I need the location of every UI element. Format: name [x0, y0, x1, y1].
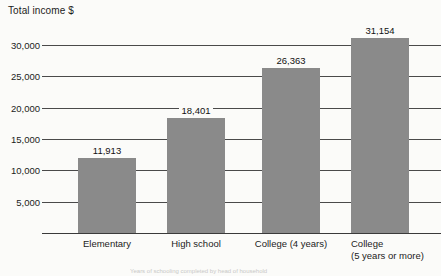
bar-value-college-5-years-or-more: 31,154 — [351, 25, 409, 36]
x-axis-label-college-4-years: College (4 years) — [255, 238, 327, 250]
y-axis-tick-label: 20,000 — [0, 102, 40, 113]
x-axis-label-high-school: High school — [171, 238, 221, 250]
chart-title: Total income $ — [8, 5, 74, 16]
y-axis-tick-label: 25,000 — [0, 71, 40, 82]
bar-value-elementary: 11,913 — [78, 145, 136, 156]
bar-value-text: 18,401 — [179, 105, 212, 116]
y-axis-tick-label: 5,000 — [0, 196, 40, 207]
bar-high-school — [167, 118, 225, 233]
footnote-text: Years of schooling completed by head of … — [130, 268, 430, 276]
y-axis-tick-label: 30,000 — [0, 40, 40, 51]
bar-value-text: 11,913 — [91, 145, 123, 156]
bar-chart: Total income $ 30,000 25,000 20,000 15,0… — [0, 0, 441, 276]
x-axis-baseline — [42, 233, 441, 234]
bar-value-high-school: 18,401 — [167, 105, 225, 116]
y-axis-tick-label: 10,000 — [0, 165, 40, 176]
bar-value-text: 26,363 — [274, 55, 307, 66]
bar-value-college-4-years: 26,363 — [262, 55, 320, 66]
bar-college-4-years — [262, 68, 320, 233]
bar-college-5-years-or-more — [351, 38, 409, 233]
bar-elementary — [78, 158, 136, 233]
y-axis-tick-label: 15,000 — [0, 134, 40, 145]
x-axis-label-college-5-years-or-more: College (5 years or more) — [351, 238, 424, 261]
bar-value-text: 31,154 — [363, 25, 396, 36]
x-axis-label-elementary: Elementary — [83, 238, 131, 250]
